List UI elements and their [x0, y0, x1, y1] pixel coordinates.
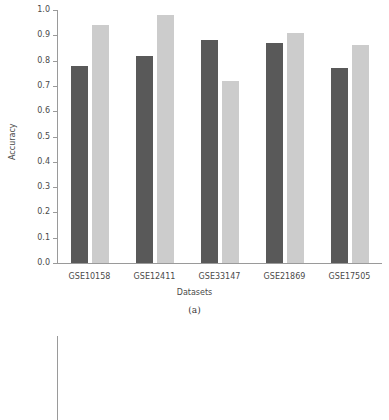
y-tick-mark — [53, 212, 57, 213]
y-tick-mark — [53, 35, 57, 36]
y-tick-label: 0.0 — [17, 259, 50, 267]
y-tick-label: 1.0 — [17, 6, 50, 14]
x-category-label: GSE21869 — [252, 272, 317, 281]
y-tick-mark — [53, 263, 57, 264]
bar — [331, 68, 348, 263]
y-tick-label: 0.2 — [17, 208, 50, 216]
y-tick-mark — [53, 111, 57, 112]
figure: Accuracy 1.00.90.80.70.60.50.40.30.20.10… — [0, 0, 389, 420]
y-tick-mark — [53, 10, 57, 11]
bar — [287, 33, 304, 263]
chart-panel-b: 1.00.90.80.7 — [0, 330, 389, 420]
panel-caption-a: (a) — [0, 305, 389, 315]
plot-area-b — [57, 336, 382, 420]
y-tick-mark — [53, 137, 57, 138]
y-tick-label: 0.4 — [17, 158, 50, 166]
x-category-label: GSE12411 — [122, 272, 187, 281]
bar — [201, 40, 218, 263]
chart-panel-a: Accuracy 1.00.90.80.70.60.50.40.30.20.10… — [0, 0, 389, 320]
y-tick-mark — [53, 162, 57, 163]
y-tick-label: 0.7 — [17, 82, 50, 90]
y-tick-label: 0.8 — [17, 57, 50, 65]
y-tick-mark — [53, 86, 57, 87]
bar — [71, 66, 88, 263]
y-tick-label: 0.9 — [17, 31, 50, 39]
bar — [222, 81, 239, 263]
x-category-label: GSE17505 — [317, 272, 382, 281]
y-axis-line-a — [57, 10, 58, 264]
y-tick-label: 0.5 — [17, 133, 50, 141]
bar — [157, 15, 174, 263]
y-tick-label: 0.3 — [17, 183, 50, 191]
bar — [266, 43, 283, 263]
x-category-label: GSE33147 — [187, 272, 252, 281]
bar — [136, 56, 153, 263]
bar — [92, 25, 109, 263]
x-axis-title-a: Datasets — [0, 288, 389, 297]
x-axis-line-a — [57, 263, 382, 264]
y-tick-mark — [53, 61, 57, 62]
y-tick-mark — [53, 238, 57, 239]
y-axis-line-b — [57, 336, 58, 420]
bar — [352, 45, 369, 263]
x-category-label: GSE10158 — [57, 272, 122, 281]
y-tick-label: 0.6 — [17, 107, 50, 115]
y-tick-label: 0.1 — [17, 234, 50, 242]
y-tick-mark — [53, 187, 57, 188]
y-axis-title-a: Accuracy — [8, 123, 17, 160]
